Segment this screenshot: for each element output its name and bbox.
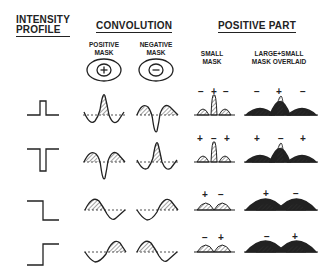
negative-mask-icon [139, 59, 173, 81]
diagram-figure [0, 0, 336, 278]
sign: − [202, 233, 208, 243]
sign: + [211, 87, 217, 97]
small-mask-row1 [194, 95, 235, 115]
sign: + [218, 233, 224, 243]
positive-mask-icon [87, 59, 121, 81]
overlaid-row4 [244, 241, 318, 252]
conv-row3-negative [136, 199, 178, 220]
sign: + [224, 134, 230, 144]
conv-row1-negative [136, 106, 178, 132]
profile-step-up-icon [27, 244, 59, 265]
conv-row4-positive [84, 241, 126, 262]
overlaid-row3 [244, 199, 318, 210]
small-mask-row3 [194, 203, 235, 210]
small-mask-row2 [194, 142, 235, 162]
conv-row3-positive [84, 199, 126, 219]
conv-row4-negative [136, 241, 178, 261]
small-mask-row4 [194, 245, 235, 252]
sign: − [218, 190, 224, 200]
sign: − [300, 87, 306, 97]
sign: + [300, 134, 306, 144]
sign: + [292, 232, 298, 242]
sign: − [223, 87, 229, 97]
sign: − [254, 87, 260, 97]
sign: + [254, 134, 260, 144]
sign: − [278, 134, 284, 144]
sign: − [211, 134, 217, 144]
conv-row2-positive [83, 153, 125, 179]
profile-bar-down-icon [27, 149, 59, 171]
sign: + [276, 87, 282, 97]
sign: − [264, 232, 270, 242]
overlaid-row1 [244, 96, 318, 115]
conv-row1-positive [83, 95, 125, 123]
sign: + [263, 189, 269, 199]
profile-bar-up-icon [27, 101, 59, 115]
sign: + [202, 190, 208, 200]
profile-step-down-icon [27, 201, 59, 220]
sign: − [293, 189, 299, 199]
overlaid-row2 [244, 143, 318, 162]
sign: + [197, 134, 203, 144]
conv-row2-negative [136, 143, 178, 170]
sign: − [198, 87, 204, 97]
